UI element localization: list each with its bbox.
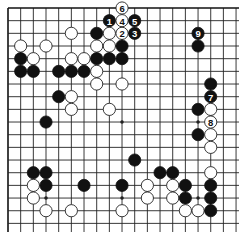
black-stone bbox=[27, 65, 39, 77]
black-stone-circle bbox=[129, 154, 141, 166]
white-stone-circle bbox=[179, 205, 191, 217]
black-stone-circle bbox=[205, 78, 217, 90]
black-stone bbox=[40, 167, 52, 179]
white-stone-circle bbox=[91, 78, 103, 90]
white-stone-circle bbox=[103, 27, 115, 39]
white-stone bbox=[65, 205, 77, 217]
star-point-dot bbox=[120, 196, 124, 200]
white-stone-circle bbox=[205, 103, 217, 115]
white-stone-circle bbox=[27, 179, 39, 191]
move-number-label: 2 bbox=[119, 28, 124, 39]
black-stone-circle bbox=[205, 192, 217, 204]
black-stone bbox=[205, 192, 217, 204]
black-stone-circle bbox=[205, 205, 217, 217]
black-stone-circle bbox=[179, 179, 191, 191]
white-stone bbox=[65, 91, 77, 103]
black-stone bbox=[91, 27, 103, 39]
black-stone bbox=[179, 192, 191, 204]
white-stone-circle bbox=[141, 179, 153, 191]
white-stone bbox=[27, 179, 39, 191]
white-stone-circle bbox=[65, 91, 77, 103]
black-stone bbox=[116, 40, 128, 52]
black-stone-circle bbox=[179, 192, 191, 204]
black-stone-circle bbox=[40, 116, 52, 128]
white-stone-circle bbox=[91, 40, 103, 52]
white-stone bbox=[205, 103, 217, 115]
white-stone: 6 bbox=[116, 2, 128, 14]
white-stone-circle bbox=[116, 78, 128, 90]
white-stone-circle bbox=[27, 192, 39, 204]
black-stone-circle bbox=[27, 167, 39, 179]
white-stone-circle bbox=[65, 53, 77, 65]
black-stone bbox=[15, 53, 27, 65]
black-stone-circle bbox=[65, 65, 77, 77]
move-number-label: 9 bbox=[195, 28, 200, 39]
black-stone-circle bbox=[91, 27, 103, 39]
white-stone-circle bbox=[205, 129, 217, 141]
white-stone-circle bbox=[40, 205, 52, 217]
black-stone-circle bbox=[116, 40, 128, 52]
black-stone bbox=[205, 205, 217, 217]
white-stone bbox=[91, 65, 103, 77]
black-stone bbox=[53, 65, 65, 77]
black-stone-circle bbox=[15, 65, 27, 77]
black-stone: 5 bbox=[129, 15, 141, 27]
white-stone bbox=[27, 192, 39, 204]
black-stone bbox=[154, 167, 166, 179]
black-stone bbox=[129, 154, 141, 166]
black-stone bbox=[103, 53, 115, 65]
white-stone bbox=[179, 205, 191, 217]
black-stone-circle bbox=[40, 179, 52, 191]
black-stone bbox=[15, 65, 27, 77]
white-stone-circle bbox=[167, 179, 179, 191]
star-point-dot bbox=[196, 196, 200, 200]
white-stone-circle bbox=[116, 205, 128, 217]
move-number-label: 8 bbox=[208, 117, 213, 128]
white-stone bbox=[116, 205, 128, 217]
white-stone bbox=[141, 179, 153, 191]
black-stone-circle bbox=[192, 40, 204, 52]
white-stone bbox=[103, 40, 115, 52]
white-stone bbox=[103, 27, 115, 39]
black-stone-circle bbox=[91, 53, 103, 65]
white-stone bbox=[205, 141, 217, 153]
white-stone bbox=[141, 192, 153, 204]
black-stone-circle bbox=[103, 53, 115, 65]
white-stone bbox=[65, 27, 77, 39]
white-stone-circle bbox=[65, 27, 77, 39]
white-stone bbox=[65, 53, 77, 65]
white-stone-circle bbox=[65, 103, 77, 115]
black-stone: 1 bbox=[103, 15, 115, 27]
move-number-label: 4 bbox=[119, 16, 125, 27]
white-stone bbox=[15, 40, 27, 52]
white-stone bbox=[40, 205, 52, 217]
black-stone-circle bbox=[167, 167, 179, 179]
black-stone-circle bbox=[116, 53, 128, 65]
white-stone bbox=[40, 40, 52, 52]
black-stone-circle bbox=[53, 65, 65, 77]
white-stone-circle bbox=[15, 40, 27, 52]
black-stone bbox=[205, 78, 217, 90]
move-number-label: 7 bbox=[208, 92, 213, 103]
black-stone bbox=[40, 179, 52, 191]
black-stone: 9 bbox=[192, 27, 204, 39]
white-stone-circle bbox=[103, 103, 115, 115]
white-stone bbox=[167, 192, 179, 204]
white-stone-circle bbox=[141, 192, 153, 204]
black-stone-circle bbox=[40, 167, 52, 179]
black-stone bbox=[116, 179, 128, 191]
black-stone bbox=[205, 179, 217, 191]
black-stone bbox=[78, 65, 90, 77]
white-stone bbox=[167, 179, 179, 191]
black-stone bbox=[116, 53, 128, 65]
white-stone bbox=[116, 78, 128, 90]
white-stone-circle bbox=[205, 167, 217, 179]
white-stone-circle bbox=[27, 53, 39, 65]
black-stone bbox=[167, 167, 179, 179]
black-stone bbox=[192, 103, 204, 115]
white-stone-circle bbox=[205, 141, 217, 153]
move-number-label: 3 bbox=[132, 28, 137, 39]
white-stone: 4 bbox=[116, 15, 128, 27]
white-stone-circle bbox=[192, 205, 204, 217]
move-number-label: 6 bbox=[119, 3, 124, 14]
